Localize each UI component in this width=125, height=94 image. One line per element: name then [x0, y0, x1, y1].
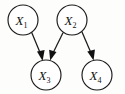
edge-x2-to-x3-arrowhead — [49, 50, 56, 61]
edge-x2-to-x4 — [82, 32, 95, 61]
node-x2-subscript: 2 — [72, 21, 76, 30]
node-x3[interactable]: X3 — [31, 60, 61, 90]
dag-figure: X1 X2 X3 X4 — [0, 0, 125, 94]
edge-x2-to-x4-arrowhead — [87, 50, 95, 61]
edge-x1-to-x3-line — [32, 32, 40, 52]
dag-canvas: X1 X2 X3 X4 — [0, 0, 125, 94]
edge-x2-to-x4-line — [82, 32, 91, 52]
node-group: X1 X2 X3 X4 — [8, 5, 112, 90]
node-x2[interactable]: X2 — [57, 5, 87, 35]
edge-x2-to-x3 — [49, 33, 63, 61]
edge-group — [32, 32, 95, 61]
edge-x1-to-x3-arrowhead — [37, 50, 45, 61]
edge-x2-to-x3-line — [53, 33, 63, 52]
node-x1[interactable]: X1 — [8, 5, 38, 35]
node-x1-subscript: 1 — [23, 21, 27, 30]
node-x4[interactable]: X4 — [82, 60, 112, 90]
node-x3-subscript: 3 — [46, 76, 50, 85]
node-x4-subscript: 4 — [97, 76, 101, 85]
edge-x1-to-x3 — [32, 32, 45, 61]
